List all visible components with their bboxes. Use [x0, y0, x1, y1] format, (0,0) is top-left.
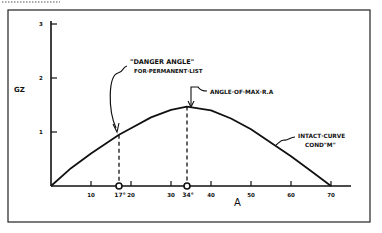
annotation-danger-leader — [110, 66, 127, 128]
y-tick-label: 3 — [39, 21, 43, 27]
marker-circle — [184, 183, 190, 189]
x-tick-label: 40 — [207, 192, 215, 198]
y-tick-label: 2 — [39, 75, 43, 81]
intact-curve-line — [51, 107, 331, 186]
x-tick-label: 30 — [167, 192, 175, 198]
annotation-cond-m: COND"M" — [305, 142, 336, 148]
marker-circle — [116, 183, 122, 189]
axes — [51, 21, 351, 186]
x-tick-label: 70 — [327, 192, 335, 198]
y-tick-label: 1 — [39, 129, 43, 135]
marker-label: 17° — [114, 191, 125, 198]
annotation-angle-max-ra: ANGLE·OF·MAX·R.A — [210, 89, 274, 95]
x-tick-label: 20 — [127, 192, 135, 198]
marker-label: 34° — [182, 191, 193, 198]
annotation-danger-angle: "DANGER ANGLE" — [130, 58, 194, 66]
x-tick-label: 60 — [287, 192, 295, 198]
annotation-permanent-list: FOR·PERMANENT·LIST — [134, 68, 203, 74]
x-axis-label: A — [234, 197, 241, 208]
x-tick-label: 10 — [87, 192, 95, 198]
y-axis-label: GZ — [14, 86, 25, 94]
gz-curve-chart: 10203040506070123 17°34° GZ A "DANGER AN… — [0, 0, 382, 233]
markers-layer: 17°34° — [114, 107, 193, 198]
annotation-intact-leader — [276, 137, 295, 145]
series-layer — [51, 107, 331, 186]
annotation-intact-curve: INTACT·CURVE — [298, 133, 345, 139]
x-tick-label: 50 — [247, 192, 255, 198]
